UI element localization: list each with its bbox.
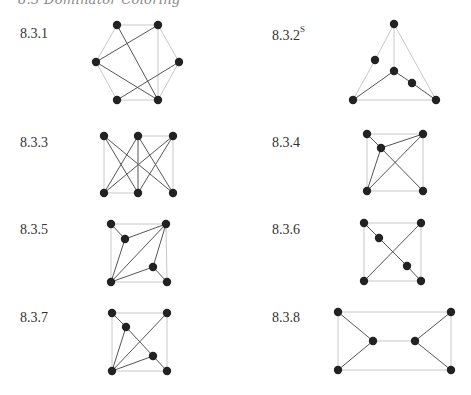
graph-vertex (163, 367, 171, 375)
graph-vertex (403, 262, 411, 270)
graph-vertex (108, 309, 116, 317)
graph-vertex (360, 277, 368, 285)
graph-vertex (360, 219, 368, 227)
graph-vertex (363, 130, 371, 138)
graph-vertex (411, 337, 419, 345)
graph-vertex (334, 308, 342, 316)
graph-edge (415, 312, 451, 341)
graph-vertex (107, 220, 115, 228)
graph-vertex (419, 130, 427, 138)
graph-vertex (113, 21, 121, 29)
graph-edge (381, 148, 423, 191)
graph-vertex (169, 132, 177, 140)
graph-8-3-3 (100, 132, 177, 197)
graph-edge (125, 224, 166, 239)
graph-8-3-1 (92, 21, 183, 104)
graph-vertex (432, 96, 440, 104)
graph-vertex (375, 234, 383, 242)
graph-vertex (417, 219, 425, 227)
graph-vertex (175, 58, 183, 66)
graph-vertex (334, 366, 342, 374)
graph-edge (338, 312, 373, 341)
graph-edge (394, 24, 436, 100)
graph-edge (166, 224, 167, 282)
graph-edge (112, 356, 153, 371)
graph-edge (96, 25, 158, 62)
graph-8-3-7 (108, 309, 171, 375)
graph-vertex (363, 187, 371, 195)
graph-edge (338, 341, 373, 370)
graph-edge (112, 327, 126, 371)
graph-vertex (100, 189, 108, 197)
graph-vertex (169, 189, 177, 197)
graph-vertex (390, 67, 398, 75)
graph-edge (96, 25, 117, 62)
graph-figures (0, 0, 471, 395)
graph-edge (412, 83, 436, 100)
graph-vertex (149, 263, 157, 271)
graph-vertex (92, 58, 100, 66)
graph-vertex (108, 367, 116, 375)
graph-vertex (113, 96, 121, 104)
graph-vertex (121, 235, 129, 243)
graph-vertex (134, 132, 142, 140)
graph-edge (111, 267, 153, 282)
graph-vertex (408, 79, 416, 87)
graph-vertex (377, 144, 385, 152)
graph-vertex (417, 277, 425, 285)
graph-vertex (162, 220, 170, 228)
graph-edge (375, 24, 394, 60)
graph-vertex (154, 96, 162, 104)
graph-8-3-6 (360, 219, 425, 285)
graph-edge (353, 60, 375, 100)
graph-vertex (447, 308, 455, 316)
graph-edge (96, 62, 117, 100)
graph-vertex (149, 352, 157, 360)
graph-8-3-2 (349, 20, 440, 104)
graph-vertex (163, 278, 171, 286)
graph-vertex (134, 189, 142, 197)
graph-8-3-4 (363, 130, 427, 195)
graph-vertex (107, 278, 115, 286)
graph-8-3-5 (107, 220, 171, 286)
graph-vertex (419, 187, 427, 195)
graph-8-3-8 (334, 308, 455, 374)
graph-vertex (163, 309, 171, 317)
graph-edge (111, 239, 125, 282)
graph-vertex (369, 337, 377, 345)
graph-vertex (447, 366, 455, 374)
graph-edge (158, 62, 179, 100)
graph-vertex (390, 20, 398, 28)
graph-vertex (349, 96, 357, 104)
graph-vertex (154, 21, 162, 29)
graph-edge (415, 341, 451, 370)
graph-edge (117, 25, 158, 100)
graph-vertex (371, 56, 379, 64)
graph-edge (158, 25, 179, 62)
graph-vertex (100, 132, 108, 140)
graph-edge (353, 71, 394, 100)
graph-vertex (122, 323, 130, 331)
